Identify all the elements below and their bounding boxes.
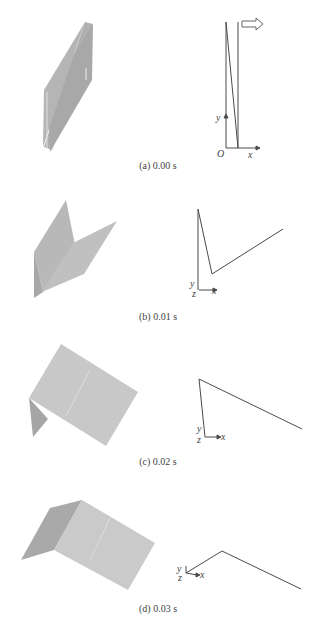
- caption-b: (b) 0.01 s: [0, 311, 316, 322]
- panel-c-3d-model: [29, 344, 138, 446]
- panel-b-line-diagram: [198, 209, 283, 292]
- caption-d: (d) 0.03 s: [0, 603, 316, 614]
- axis-x-label-d: x: [199, 569, 205, 580]
- panel-d-3d-model: [21, 500, 155, 590]
- axis-z-label-b: z: [191, 288, 196, 299]
- axis-z-label-d: z: [177, 572, 182, 583]
- panel-a-3d-model: [43, 22, 93, 152]
- axis-y-label-c: y: [196, 423, 202, 434]
- caption-c: (c) 0.02 s: [0, 456, 316, 467]
- panel-b-3d-model: [34, 200, 117, 298]
- axis-x-label-b: x: [211, 285, 217, 296]
- axis-z-label-c: z: [196, 434, 201, 445]
- velocity-arrow-icon: [242, 18, 263, 30]
- axis-y-label-a: y: [215, 112, 221, 123]
- axis-x-label-a: x: [247, 149, 253, 160]
- axis-x-label-c: x: [220, 431, 226, 442]
- axis-origin-label: O: [217, 148, 224, 159]
- caption-a: (a) 0.00 s: [0, 160, 316, 171]
- panel-c-line-diagram: [199, 379, 302, 439]
- panel-a-line-diagram: [224, 18, 263, 150]
